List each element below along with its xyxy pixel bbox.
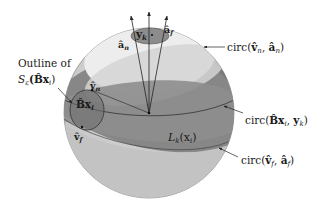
yk-point [151, 34, 153, 36]
callout-circ-vn-an: circ(v̂n, ân) [227, 41, 284, 55]
callout-circ-bx-yk: circ(B̂xi, yk) [245, 114, 308, 128]
s-epsilon-outline [70, 90, 104, 130]
label-Lk: Lk(xi) [167, 131, 197, 145]
sphere-diagram: yk ân âf v̂n B̂xi v̂f Lk(xi) Outline of … [0, 0, 335, 213]
center-point [148, 112, 151, 115]
label-outline-line1: Outline of [18, 57, 72, 69]
callout-circ-vf-af: circ(v̂f, âf) [241, 154, 294, 168]
label-outline-line2: Sε(B̂xi) [18, 73, 55, 87]
vf-point [81, 126, 83, 128]
